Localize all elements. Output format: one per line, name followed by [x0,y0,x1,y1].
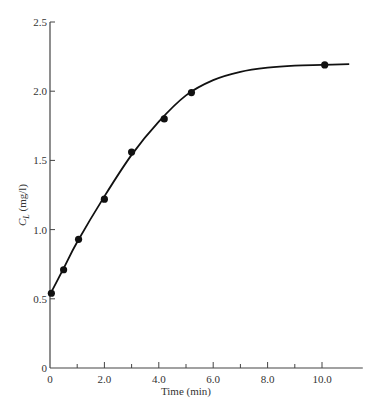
data-point [60,266,67,273]
x-tick-label: 4.0 [152,373,166,385]
data-point [128,148,135,155]
x-axis-label: Time (min) [161,385,211,398]
y-tick-label: 1.0 [33,224,47,236]
y-tick-label: 0.5 [33,293,47,305]
data-point [161,115,168,122]
axes: 00.51.01.52.02.502.04.06.08.010.0 [33,16,363,385]
fitted-curve [50,64,349,294]
x-tick-label: 6.0 [206,373,220,385]
y-tick-label: 2.0 [33,85,47,97]
y-tick-label: 1.5 [33,154,47,166]
data-point [321,61,328,68]
x-tick-label: 10.0 [312,373,332,385]
data-points [48,61,329,297]
data-point [75,236,82,243]
y-tick-label: 2.5 [33,16,47,28]
y-axis-label: CL (mg/l) [16,184,31,226]
x-tick-label: 8.0 [261,373,275,385]
x-tick-label: 2.0 [98,373,112,385]
data-point [48,290,55,297]
data-point [188,89,195,96]
data-point [101,196,108,203]
x-tick-label: 0 [47,373,53,385]
chart: 00.51.01.52.02.502.04.06.08.010.0 Time (… [0,0,388,410]
